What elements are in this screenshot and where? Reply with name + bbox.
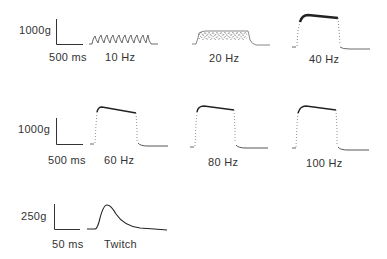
panel-label-60hz: 60 Hz [104,154,134,166]
trace-60hz [90,107,168,146]
scale-bar-row3 [55,204,81,230]
trace-100hz [292,106,369,150]
panel-label-20hz: 20 Hz [209,52,239,64]
trace-twitch [87,205,167,230]
traces-canvas [0,0,387,259]
force-frequency-figure: 1000g 500 ms 10 Hz 20 Hz 40 Hz 1000g 500… [0,0,387,259]
trace-10hz [89,35,158,44]
scale-bar-row1 [57,19,84,45]
scale-bar-row2 [57,118,84,145]
force-scale-label-row2: 1000g [18,123,50,135]
time-scale-label-row2: 500 ms [48,154,86,166]
panel-label-100hz: 100 Hz [306,157,343,169]
force-scale-label-row3: 250g [21,210,47,222]
time-scale-label-row3: 50 ms [52,238,83,250]
trace-40hz [292,15,370,49]
force-scale-label-row1: 1000g [19,24,51,36]
time-scale-label-row1: 500 ms [49,51,87,63]
panel-label-40hz: 40 Hz [309,53,339,65]
panel-label-10hz: 10 Hz [105,51,135,63]
trace-20hz [192,31,270,45]
panel-label-twitch: Twitch [104,238,137,250]
panel-label-80hz: 80 Hz [208,156,238,168]
trace-80hz [190,106,268,148]
